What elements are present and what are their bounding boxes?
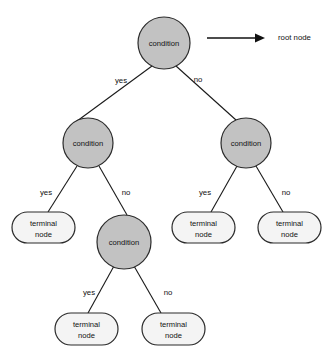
branch-label-level2left-yes: yes (40, 188, 52, 197)
node-terminal-d[interactable]: terminal node (55, 313, 118, 345)
terminal-c-label-line2: node (281, 230, 298, 239)
terminal-a-label-line2: node (35, 230, 52, 239)
terminal-b-label-line1: terminal (190, 219, 217, 228)
node-terminal-a[interactable]: terminal node (12, 212, 75, 243)
branch-label-level2left-no: no (122, 188, 131, 197)
level2-right-node-label: condition (231, 139, 261, 148)
node-terminal-c[interactable]: terminal node (258, 212, 321, 243)
edge-root-to-level2-left (73, 66, 152, 124)
node-level3-mid[interactable]: condition (97, 215, 151, 269)
node-level2-left[interactable]: condition (63, 118, 113, 168)
branch-label-level3mid-yes: yes (83, 288, 95, 297)
terminal-d-label-line1: terminal (73, 320, 100, 329)
level2-left-node-label: condition (73, 139, 103, 148)
terminal-e-shape (142, 313, 205, 345)
branch-label-level2right-no: no (282, 188, 291, 197)
branch-label-level3mid-no: no (164, 288, 173, 297)
right-arrow-icon-head (255, 34, 265, 43)
root-node-label: condition (149, 39, 179, 48)
level3-mid-node-label: condition (109, 238, 139, 247)
branch-label-level2right-yes: yes (199, 188, 211, 197)
terminal-e-label-line2: node (165, 331, 182, 340)
decision-tree-diagram: condition condition condition condition … (0, 0, 332, 363)
node-terminal-b[interactable]: terminal node (172, 212, 235, 243)
root-node-annotation-label: root node (278, 33, 311, 42)
terminal-a-label-line1: terminal (30, 219, 57, 228)
node-root[interactable]: condition (138, 17, 190, 69)
edge-group (48, 66, 283, 313)
tree-canvas: condition condition condition condition … (0, 0, 332, 363)
terminal-d-label-line2: node (78, 331, 95, 340)
edge-level3mid-to-terminal-e (134, 266, 161, 313)
edge-level2right-to-terminal-b (211, 166, 237, 212)
terminal-b-label-line2: node (195, 230, 212, 239)
root-node-annotation: root node (207, 33, 311, 42)
branch-label-group: yes no yes no yes no yes no (40, 75, 291, 297)
edge-level2left-to-terminal-a (48, 166, 77, 212)
node-level2-right[interactable]: condition (221, 118, 271, 168)
edge-root-to-level2-right (176, 66, 236, 120)
branch-label-root-yes: yes (115, 76, 127, 85)
terminal-d-shape (55, 313, 118, 345)
branch-label-root-no: no (194, 75, 203, 84)
edge-level2right-to-terminal-c (256, 166, 283, 212)
node-terminal-e[interactable]: terminal node (142, 313, 205, 345)
terminal-e-label-line1: terminal (160, 320, 187, 329)
terminal-c-label-line1: terminal (276, 219, 303, 228)
